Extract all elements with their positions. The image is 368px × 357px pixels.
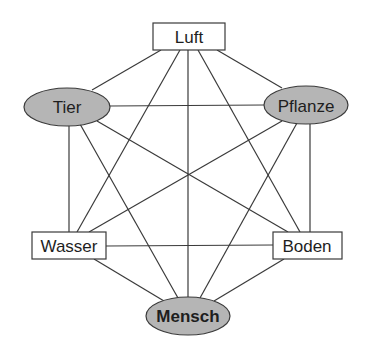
edge-tier-boden	[97, 121, 288, 232]
node-label-tier: Tier	[53, 98, 82, 117]
edge-luft-wasser	[77, 50, 180, 232]
node-tier: Tier	[24, 88, 110, 126]
node-wasser: Wasser	[32, 232, 106, 259]
node-label-wasser: Wasser	[41, 237, 98, 256]
edge-pflanze-wasser	[89, 121, 282, 232]
node-label-pflanze: Pflanze	[278, 97, 335, 116]
network-diagram: Luft Tier Pflanze Wasser Boden Mensch	[0, 0, 368, 357]
node-mensch: Mensch	[146, 297, 230, 335]
node-label-luft: Luft	[175, 28, 204, 47]
edge-wasser-boden	[106, 245, 273, 246]
edge-wasser-mensch	[94, 259, 164, 301]
edge-luft-tier	[92, 50, 161, 90]
edge-luft-pflanze	[217, 50, 282, 88]
edge-luft-boden	[198, 50, 300, 232]
edge-tier-pflanze	[110, 105, 264, 106]
edge-tier-mensch	[80, 124, 178, 298]
node-boden: Boden	[273, 232, 342, 259]
node-label-mensch: Mensch	[156, 307, 219, 326]
edge-pflanze-mensch	[200, 123, 297, 298]
edge-boden-mensch	[214, 259, 284, 301]
edges	[69, 50, 310, 301]
node-luft: Luft	[153, 23, 225, 50]
node-pflanze: Pflanze	[264, 86, 348, 124]
node-label-boden: Boden	[282, 237, 331, 256]
